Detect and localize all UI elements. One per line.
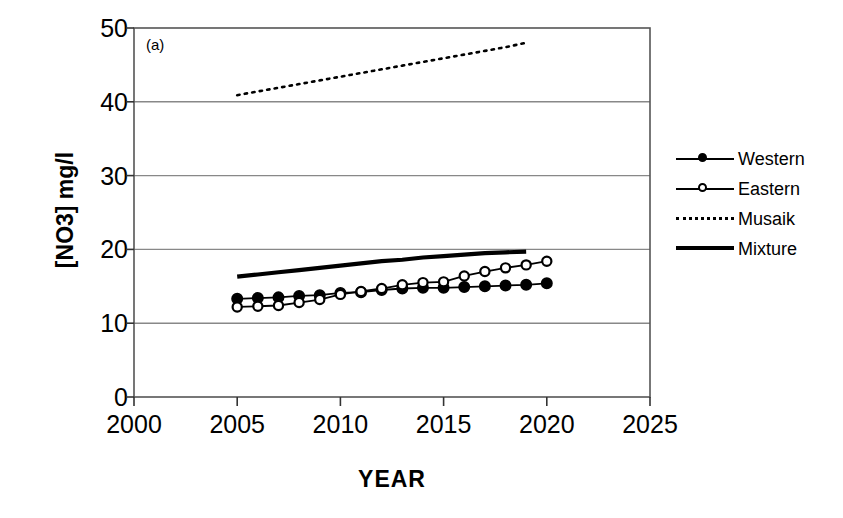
plot-frame xyxy=(134,28,650,397)
data-point-western-2019 xyxy=(521,280,531,290)
data-point-eastern-2011 xyxy=(356,287,365,296)
legend-label-western: Western xyxy=(734,150,805,168)
axis-ticks xyxy=(126,28,650,406)
data-point-eastern-2006 xyxy=(253,302,262,311)
legend-key-dotted xyxy=(676,210,734,228)
data-point-eastern-2009 xyxy=(315,295,324,304)
legend-item-mixture: Mixture xyxy=(676,234,836,264)
data-point-eastern-2013 xyxy=(398,280,407,289)
legend-label-eastern: Eastern xyxy=(734,180,800,198)
data-point-eastern-2019 xyxy=(522,260,531,269)
legend-key-thick-solid xyxy=(676,240,734,258)
data-point-eastern-2010 xyxy=(336,290,345,299)
filled-circle-marker-icon xyxy=(698,153,707,162)
series-line-musaik xyxy=(237,43,526,95)
thick-line-swatch-icon xyxy=(676,246,734,250)
data-point-eastern-2016 xyxy=(460,271,469,280)
chart-figure: [NO3] mg/l 50 40 30 20 10 0 2000 2005 20… xyxy=(0,0,843,518)
data-point-eastern-2018 xyxy=(501,263,510,272)
legend-label-mixture: Mixture xyxy=(734,240,797,258)
chart-legend: Western Eastern Musaik Mixture xyxy=(676,144,836,264)
data-point-eastern-2020 xyxy=(542,257,551,266)
data-point-western-2017 xyxy=(480,281,490,291)
open-circle-marker-icon xyxy=(698,183,707,192)
data-point-eastern-2017 xyxy=(480,267,489,276)
data-point-eastern-2012 xyxy=(377,284,386,293)
data-point-western-2020 xyxy=(542,278,552,288)
data-point-eastern-2015 xyxy=(439,277,448,286)
legend-item-western: Western xyxy=(676,144,836,174)
legend-item-musaik: Musaik xyxy=(676,204,836,234)
legend-label-musaik: Musaik xyxy=(734,210,795,228)
series-musaik xyxy=(237,43,526,95)
data-point-western-2018 xyxy=(500,280,510,290)
data-point-western-2016 xyxy=(459,282,469,292)
data-point-eastern-2005 xyxy=(233,302,242,311)
data-point-eastern-2008 xyxy=(295,298,304,307)
data-point-eastern-2014 xyxy=(418,278,427,287)
data-point-eastern-2007 xyxy=(274,301,283,310)
legend-key-solid-filled-circles xyxy=(676,150,734,168)
data-series xyxy=(232,43,552,312)
dotted-line-swatch-icon xyxy=(676,217,734,220)
legend-key-solid-open-circles xyxy=(676,180,734,198)
legend-item-eastern: Eastern xyxy=(676,174,836,204)
